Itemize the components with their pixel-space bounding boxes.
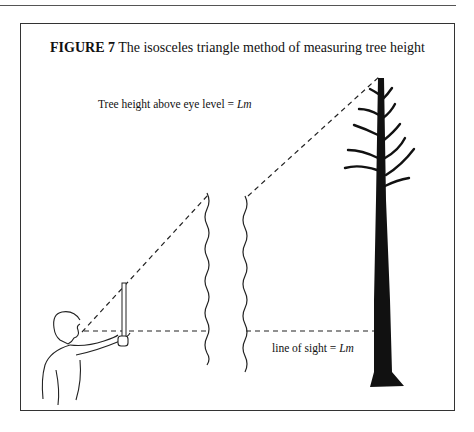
line-of-sight-var: Lm (339, 342, 354, 354)
tree-height-text: Tree height above eye level = (98, 98, 237, 110)
measuring-stick (122, 283, 126, 339)
tree-height-var: Lm (237, 98, 252, 110)
line-of-sight-text: line of sight = (272, 342, 339, 354)
tree (345, 78, 414, 387)
tree-height-label: Tree height above eye level = Lm (98, 98, 252, 110)
break-marks (205, 193, 247, 372)
sight-lines (82, 76, 380, 332)
line-of-sight-label: line of sight = Lm (272, 342, 354, 354)
observer-figure (42, 312, 130, 405)
diagram-canvas (0, 0, 474, 432)
